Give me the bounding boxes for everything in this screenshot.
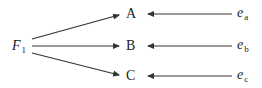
error-eb-label: eb (237, 38, 249, 53)
node-a-label: A (126, 7, 136, 21)
error-symbol: e (237, 37, 243, 52)
node-c-label: C (126, 69, 135, 83)
error-subscript: a (244, 12, 248, 22)
factor-symbol: F (12, 38, 21, 53)
error-ea-label: ea (237, 6, 248, 21)
factor-subscript: 1 (22, 45, 27, 55)
error-ec-label: ec (237, 68, 248, 83)
error-subscript: c (244, 74, 248, 84)
error-symbol: e (237, 67, 243, 82)
arrow-f1-to-c (32, 53, 119, 75)
error-subscript: b (244, 44, 249, 54)
error-symbol: e (237, 5, 243, 20)
factor-f1-label: F1 (12, 39, 26, 54)
node-b-label: B (126, 39, 135, 53)
arrow-f1-to-a (32, 15, 119, 39)
